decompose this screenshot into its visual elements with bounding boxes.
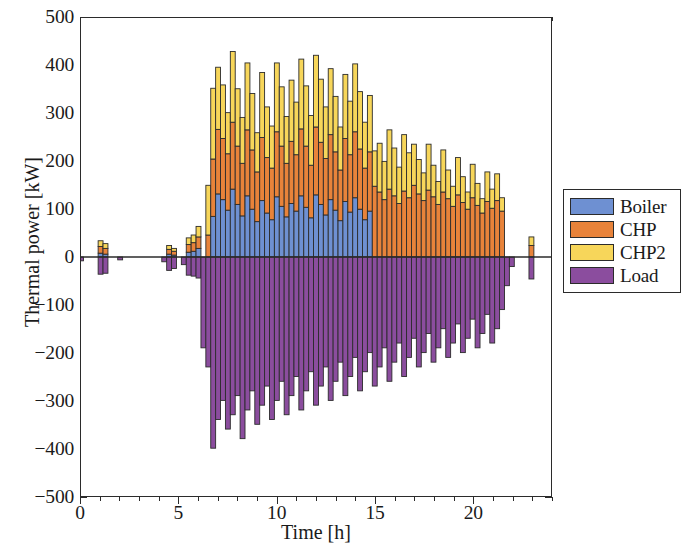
bar-segment-boiler [338, 221, 343, 257]
y-tick-label: 500 [6, 7, 74, 27]
bar-segment-load [284, 257, 289, 415]
bar-segment-boiler [260, 201, 265, 257]
bar-segment-chp2 [103, 244, 108, 249]
x-tick-mark [178, 497, 179, 504]
x-minor-tick-mark [100, 497, 101, 501]
bar-segment-chp [407, 198, 412, 257]
bar-segment-chp2 [225, 113, 230, 154]
bar-segment-load [495, 257, 500, 329]
bar-segment-load [441, 257, 446, 329]
bar-segment-load [314, 257, 319, 405]
bar-segment-chp2 [279, 87, 284, 146]
y-tick-label: −400 [6, 439, 74, 459]
bar-segment-chp [333, 152, 338, 210]
bar-segment-chp2 [402, 135, 407, 191]
bar-segment-chp [284, 163, 289, 217]
bar-segment-load [529, 257, 534, 279]
bar-segment-chp [309, 165, 314, 218]
x-axis-title: Time [h] [80, 522, 552, 542]
bar-segment-chp2 [441, 150, 446, 192]
bar-segment-chp [460, 203, 465, 257]
bar-segment-chp2 [416, 159, 421, 193]
bar-segment-boiler [294, 211, 299, 257]
bar-segment-chp [343, 138, 348, 201]
bar-segment-chp [495, 201, 500, 257]
x-minor-tick-mark [552, 17, 553, 21]
bar-segment-chp2 [318, 79, 323, 142]
legend-swatch-boiler [570, 198, 614, 215]
bar-segment-boiler [240, 216, 245, 257]
bar-segment-load [211, 257, 216, 448]
bar-segment-chp2 [392, 148, 397, 196]
bar-segment-boiler [367, 211, 372, 257]
bar-segment-chp [304, 146, 309, 207]
bar-segment-chp2 [235, 89, 240, 146]
bar-segment-chp2 [172, 248, 177, 251]
bar-segment-chp2 [284, 116, 289, 163]
bar-segment-chp [353, 132, 358, 198]
bar-segment-boiler [265, 213, 270, 257]
bar-segment-chp [397, 203, 402, 257]
bar-segment-load [490, 257, 495, 343]
bar-segment-chp [392, 196, 397, 257]
bar-segment-chp [191, 243, 196, 252]
bar-segment-chp [103, 248, 108, 254]
bar-segment-load [382, 257, 387, 348]
bar-segment-load [304, 257, 309, 391]
bar-segment-boiler [348, 212, 353, 257]
bar-segment-chp2 [529, 237, 534, 246]
bar-segment-load [377, 257, 382, 367]
y-axis-title: Thermal power [kW] [22, 102, 42, 382]
bar-segment-load [411, 257, 416, 338]
bar-segment-load [235, 257, 240, 396]
bar-segment-chp2 [382, 161, 387, 199]
bar-segment-load [446, 257, 451, 357]
bar-segment-load [392, 257, 397, 362]
bar-segment-chp2 [353, 64, 358, 132]
bar-segment-boiler [250, 209, 255, 257]
bar-segment-chp [436, 204, 441, 257]
bar-segment-boiler [196, 248, 201, 257]
bar-segment-boiler [230, 189, 235, 257]
bar-segment-load [318, 257, 323, 386]
bar-segment-chp [328, 135, 333, 200]
bar-segment-chp [289, 141, 294, 203]
bar-segment-load [240, 257, 245, 439]
bar-segment-boiler [289, 203, 294, 257]
bar-segment-chp [446, 199, 451, 257]
bar-segment-chp2 [289, 80, 294, 141]
bar-segment-chp [441, 192, 446, 257]
bar-segment-chp [470, 198, 475, 257]
bar-segment-chp [196, 237, 201, 248]
bar-segment-boiler [309, 218, 314, 257]
bar-segment-load [426, 257, 431, 333]
x-minor-tick-mark [159, 497, 160, 501]
bar-segment-chp2 [372, 151, 377, 186]
bar-segment-chp2 [245, 63, 250, 130]
bar-segment-load [343, 257, 348, 396]
bar-segment-load [358, 257, 363, 391]
x-minor-tick-mark [139, 497, 140, 501]
x-minor-tick-mark [198, 497, 199, 501]
bar-segment-boiler [186, 252, 191, 257]
bar-segment-chp2 [98, 241, 103, 247]
bar-segment-load [397, 257, 402, 343]
x-minor-tick-mark [395, 497, 396, 501]
bar-segment-load [186, 257, 191, 275]
x-tick-mark [277, 497, 278, 504]
bar-segment-chp2 [167, 246, 172, 250]
bar-segment-load [274, 257, 279, 400]
bar-segment-chp2 [265, 107, 270, 158]
bar-segment-chp2 [216, 67, 221, 129]
x-tick-label: 10 [247, 503, 307, 523]
bar-segment-chp2 [196, 226, 201, 237]
bar-segment-chp2 [299, 59, 304, 129]
legend-item-load: Load [564, 264, 680, 287]
bar-segment-chp [377, 192, 382, 257]
x-minor-tick-mark [316, 497, 317, 501]
bar-segment-chp [274, 132, 279, 197]
bar-segment-chp [421, 201, 426, 257]
bar-segment-chp2 [358, 92, 363, 149]
bar-segment-chp [480, 213, 485, 257]
legend-item-chp: CHP [564, 218, 680, 241]
